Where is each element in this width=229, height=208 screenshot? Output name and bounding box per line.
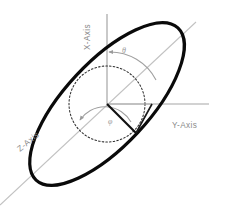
x-axis-label: X-Axis <box>83 24 92 50</box>
diagram-canvas: X-Axis Y-Axis Z-Axis θ φ <box>0 0 229 208</box>
phi-angle-label: φ <box>108 117 113 126</box>
theta-angle-label: θ <box>122 46 126 55</box>
y-axis-label: Y-Axis <box>172 121 197 130</box>
spherical-coordinate-diagram: X-Axis Y-Axis Z-Axis θ φ <box>0 0 229 208</box>
